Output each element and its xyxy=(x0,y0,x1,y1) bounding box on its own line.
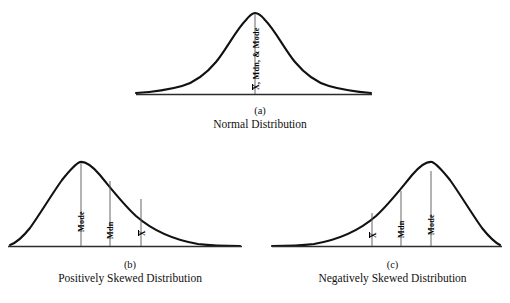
panel-b-label-median: Mdn xyxy=(107,222,115,239)
panel-b-positively-skewed-distribution xyxy=(8,162,242,247)
x-bar-glyph: X xyxy=(369,232,378,238)
x-bar-glyph: X xyxy=(252,84,261,90)
caption-a-letter: (a) xyxy=(175,104,345,117)
panel-b-label-median-text: Mdn xyxy=(106,222,115,239)
panel-c-negatively-skewed-distribution xyxy=(272,162,502,247)
panel-c-label-median-text: Mdn xyxy=(397,221,406,238)
caption-b-letter: (b) xyxy=(25,258,235,271)
x-bar-glyph: X xyxy=(138,230,147,236)
caption-c-title: Negatively Skewed Distribution xyxy=(285,271,500,286)
caption-c-letter: (c) xyxy=(285,258,500,271)
panel-b-label-mean: X xyxy=(138,230,147,236)
caption-panel-a: (a) Normal Distribution xyxy=(175,104,345,132)
caption-panel-c: (c) Negatively Skewed Distribution xyxy=(285,258,500,286)
panel-a-label-mean-median-mode: X, Mdn, & Mode xyxy=(252,27,261,90)
negatively-skewed-curve-path xyxy=(272,162,500,246)
caption-b-title: Positively Skewed Distribution xyxy=(25,271,235,286)
panel-a-label-rest: , Mdn, & Mode xyxy=(252,27,261,84)
caption-a-title: Normal Distribution xyxy=(175,117,345,132)
panel-c-label-mode-text: Mode xyxy=(427,214,436,235)
panel-b-label-mode: Mode xyxy=(78,211,86,232)
caption-panel-b: (b) Positively Skewed Distribution xyxy=(25,258,235,286)
panel-c-label-mean: X xyxy=(369,232,378,238)
panel-c-label-mode: Mode xyxy=(428,214,436,235)
positively-skewed-curve-path xyxy=(10,162,240,246)
panel-b-label-mode-text: Mode xyxy=(77,211,86,232)
panel-c-label-median: Mdn xyxy=(398,221,406,238)
statistics-figure: X, Mdn, & Mode Mode Mdn X X Mdn Mode (a)… xyxy=(0,0,510,303)
